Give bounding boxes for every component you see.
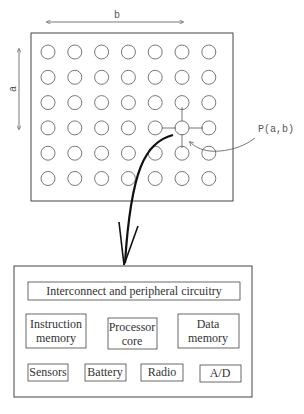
sensor-node [148, 70, 162, 84]
sensor-node [202, 70, 216, 84]
sensor-node [148, 121, 162, 135]
sensor-node [95, 172, 109, 186]
sensor-node [41, 70, 55, 84]
sensor-node [175, 45, 189, 59]
sensor-node [121, 121, 135, 135]
sensor-node [202, 121, 216, 135]
sensor-node [121, 146, 135, 160]
dimension-a-label: a [8, 86, 19, 92]
sensor-node [68, 172, 82, 186]
sensor-node [175, 172, 189, 186]
sensor-node [175, 70, 189, 84]
sensor-node [68, 121, 82, 135]
sensor-node [41, 121, 55, 135]
sensor-network-diagram: b a P(a,b) Interconnect and peripheral c… [0, 0, 304, 414]
instruction-memory-line1: Instruction [30, 317, 82, 331]
processor-core-line1: Processor [109, 320, 156, 334]
dimension-b-label: b [114, 10, 120, 21]
sensor-node [95, 121, 109, 135]
sensor-node [41, 45, 55, 59]
sensor-grid [41, 45, 216, 186]
dimension-b-arrow: b [47, 10, 183, 22]
sensor-node [95, 45, 109, 59]
sensor-node [41, 96, 55, 110]
sensor-node [202, 96, 216, 110]
battery-label: Battery [87, 365, 122, 379]
sensor-node [121, 45, 135, 59]
sensor-node [41, 146, 55, 160]
sensor-node [202, 45, 216, 59]
highlighted-sensor-node [175, 121, 189, 135]
sensor-node [121, 172, 135, 186]
sensor-node [148, 96, 162, 110]
node-label: P(a,b) [258, 124, 294, 135]
sensor-node [68, 146, 82, 160]
sensor-node [68, 45, 82, 59]
data-memory-line2: memory [188, 331, 228, 345]
sensor-node [202, 146, 216, 160]
sensor-node [175, 146, 189, 160]
data-memory-line1: Data [197, 317, 220, 331]
sensor-node [68, 96, 82, 110]
sensor-node [68, 70, 82, 84]
sensor-node [121, 96, 135, 110]
sensor-node [41, 172, 55, 186]
processor-core-line2: core [122, 334, 143, 348]
sensor-node [95, 146, 109, 160]
dimension-a-arrow: a [8, 49, 19, 129]
sensor-node [202, 172, 216, 186]
interconnect-label: Interconnect and peripheral circuitry [46, 284, 222, 298]
sensor-node [148, 45, 162, 59]
sensor-node [121, 70, 135, 84]
sensor-node [95, 96, 109, 110]
sensor-node [95, 70, 109, 84]
instruction-memory-line2: memory [36, 331, 76, 345]
ad-converter-label: A/D [210, 366, 231, 380]
sensor-node [148, 172, 162, 186]
radio-label: Radio [148, 365, 177, 379]
sensors-label: Sensors [29, 365, 67, 379]
